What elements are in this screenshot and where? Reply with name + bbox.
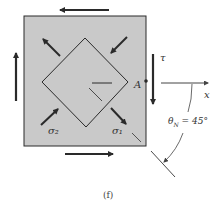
angle-label: θN = 45° [168,117,208,128]
point-a [144,79,148,83]
sigma1-label: σ₁ [112,126,123,136]
principal-direction-line [151,151,175,177]
tau-label: τ [160,53,166,63]
figure-caption: (f) [103,190,113,200]
angle-arc [188,84,192,112]
x-axis-label: x [204,90,210,100]
point-a-label: A [134,80,141,90]
sigma2-label: σ₂ [48,126,59,136]
stress-element-diagram [0,0,221,212]
